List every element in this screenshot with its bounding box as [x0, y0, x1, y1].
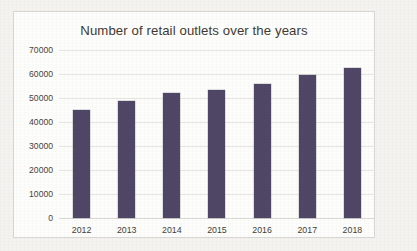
y-axis-tick-label: 70000 — [29, 45, 53, 55]
y-axis-tick-label: 30000 — [29, 141, 53, 151]
x-axis-tick-label: 2013 — [117, 225, 137, 235]
bar-2016 — [254, 84, 271, 218]
x-axis-tick-label: 2017 — [297, 225, 317, 235]
bar-2014 — [163, 93, 180, 218]
y-axis-tick-label: 40000 — [29, 117, 53, 127]
bar-2018 — [344, 68, 361, 218]
y-axis-tick-label: 60000 — [29, 69, 53, 79]
y-axis-tick-label: 20000 — [29, 165, 53, 175]
bar-2015 — [208, 90, 225, 218]
bar-slot: 2017 — [285, 50, 330, 218]
x-axis-tick-label: 2012 — [72, 225, 92, 235]
bar-slot: 2014 — [149, 50, 194, 218]
bar-2012 — [73, 110, 90, 218]
x-axis-tick-label: 2018 — [343, 225, 363, 235]
y-axis-tick-label: 50000 — [29, 93, 53, 103]
plot-area: 010000200003000040000500006000070000 201… — [59, 50, 375, 218]
bar-2013 — [118, 101, 135, 218]
y-axis-tick-label: 0 — [48, 213, 53, 223]
gridline — [59, 218, 375, 219]
bar-slot: 2015 — [194, 50, 239, 218]
bar-2017 — [299, 75, 316, 218]
chart-title: Number of retail outlets over the years — [14, 23, 374, 38]
bar-slot: 2018 — [330, 50, 375, 218]
chart-card: Number of retail outlets over the years … — [13, 11, 375, 238]
chart-page: Number of retail outlets over the years … — [0, 0, 417, 251]
bar-slot: 2012 — [59, 50, 104, 218]
bar-series: 2012201320142015201620172018 — [59, 50, 375, 218]
bar-slot: 2016 — [240, 50, 285, 218]
bar-slot: 2013 — [104, 50, 149, 218]
y-axis-tick-label: 10000 — [29, 189, 53, 199]
x-axis-tick-label: 2014 — [162, 225, 182, 235]
x-axis-tick-label: 2016 — [252, 225, 272, 235]
x-axis-tick-label: 2015 — [207, 225, 227, 235]
